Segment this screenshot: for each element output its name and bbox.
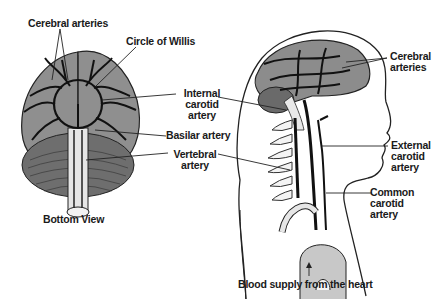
caption-bottom-view: Bottom View bbox=[43, 214, 104, 225]
head-side-view bbox=[218, 31, 391, 299]
label-basilar-artery: Basilar artery bbox=[166, 130, 230, 141]
label-cerebral-arteries-side: Cerebral arteries bbox=[390, 51, 431, 73]
label-common-carotid-artery: Common carotid artery bbox=[370, 187, 414, 220]
diagram-artwork bbox=[0, 0, 445, 299]
label-blood-supply-from-heart: Blood supply from the heart bbox=[238, 279, 373, 290]
label-external-carotid-artery: External carotid artery bbox=[391, 140, 431, 173]
label-line: artery bbox=[168, 160, 222, 171]
label-internal-carotid-artery: Internal carotid artery bbox=[176, 88, 228, 121]
label-cerebral-arteries-bottom: Cerebral arteries bbox=[28, 18, 108, 29]
label-line: arteries bbox=[390, 62, 431, 73]
label-line: artery bbox=[370, 209, 414, 220]
brain-bottom-view bbox=[22, 29, 176, 217]
label-line: artery bbox=[391, 162, 431, 173]
label-line: artery bbox=[176, 110, 228, 121]
label-vertebral-artery: Vertebral artery bbox=[168, 149, 222, 171]
label-circle-of-willis: Circle of Willis bbox=[126, 36, 195, 47]
